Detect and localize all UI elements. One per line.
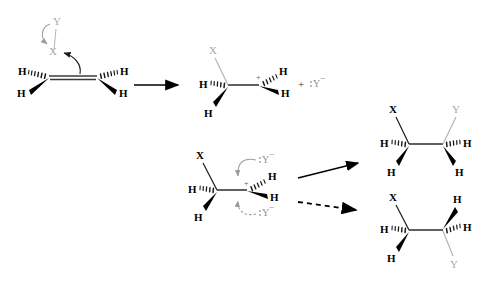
structure-carbocation-top: X H H + H H: [199, 44, 290, 119]
wedge-bond-down-left: [396, 232, 409, 252]
hash-bond-upper-right: [101, 70, 118, 78]
atom-label-h: H: [455, 166, 464, 178]
reaction-arrow-retention: [298, 163, 358, 178]
wedge-bond-up-right: [443, 207, 458, 229]
byproduct-group: + Y −: [298, 73, 326, 90]
wedge-bond-down-right: [247, 191, 268, 199]
atom-label-x: X: [196, 149, 204, 161]
structure-product-bottom: X Y H H H H: [380, 191, 472, 270]
cation-charge-label: +: [244, 179, 249, 188]
atom-label-x: X: [209, 44, 217, 56]
atom-label-x: X: [389, 191, 397, 203]
atom-label-h: H: [17, 87, 26, 99]
atom-label-h: H: [387, 252, 396, 264]
wedge-bond-down-left: [213, 87, 228, 107]
nucleophile-top: Y −: [259, 149, 275, 165]
plus-sign-label: +: [298, 78, 304, 90]
reaction-arrow-inversion: [298, 202, 356, 210]
nucleophile-bottom: Y −: [259, 202, 275, 218]
atom-label-h: H: [119, 87, 128, 99]
atom-label-h: H: [279, 65, 288, 77]
atom-label-x: X: [389, 103, 397, 115]
structure-reactant: H H H H X Y: [17, 15, 129, 99]
hash-bond-right: [447, 224, 461, 233]
wedge-bond-lower-left: [29, 78, 49, 95]
atom-label-h: H: [453, 193, 462, 205]
hash-bond-left: [200, 186, 214, 193]
wedge-bond-down-right: [259, 86, 279, 95]
curved-arrow-nucleophile-top: [238, 159, 256, 176]
hash-bond-left: [392, 140, 406, 147]
atom-label-h: H: [120, 65, 129, 77]
atom-label-h: H: [387, 166, 396, 178]
wedge-bond-down-left: [396, 146, 409, 166]
atom-label-y: Y: [450, 258, 458, 270]
structure-carbocation-bottom: X H H + H H Y: [188, 149, 279, 223]
atom-label-h: H: [199, 78, 208, 90]
atom-label-h: H: [268, 170, 277, 182]
atom-label-h: H: [380, 137, 389, 149]
atom-label-h: H: [463, 137, 472, 149]
structure-product-top: X Y H H H H: [380, 103, 472, 178]
curved-arrow-bond-to-x: [64, 53, 80, 74]
atom-label-h: H: [194, 211, 203, 223]
atom-label-h: H: [380, 223, 389, 235]
hash-bond-up-right: [251, 180, 265, 191]
wedge-bond-down-right: [443, 146, 456, 166]
hash-bond-left: [211, 81, 225, 88]
atom-label-h: H: [204, 107, 213, 119]
hash-bond-right: [447, 140, 461, 147]
curved-arrow-y-to-x: [42, 24, 50, 44]
atom-label-h: H: [188, 183, 197, 195]
cation-charge-label: +: [256, 73, 261, 82]
nucleophile-charge-label: −: [269, 149, 275, 160]
atom-label-h: H: [18, 65, 27, 77]
atom-label-x: X: [49, 45, 57, 57]
hash-bond-up-right: [263, 75, 277, 86]
nucleophile-charge-label: −: [320, 73, 326, 84]
nucleophile-charge-label: −: [269, 202, 275, 213]
curved-arrow-nucleophile-bottom: [238, 201, 256, 215]
atom-label-y: Y: [452, 103, 460, 115]
atom-label-h: H: [281, 87, 290, 99]
chemistry-mechanism-diagram: H H H H X Y: [0, 0, 500, 281]
atom-label-y: Y: [53, 15, 61, 27]
hash-bond-left: [392, 226, 406, 233]
wedge-bond-down-left: [203, 192, 217, 211]
atom-label-h: H: [463, 221, 472, 233]
wedge-bond-lower-right: [97, 78, 117, 95]
hash-bond-upper-left: [29, 70, 46, 78]
